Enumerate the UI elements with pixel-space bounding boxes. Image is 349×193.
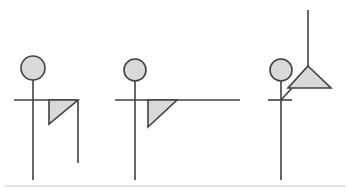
figure-three (268, 10, 331, 180)
figure-one-triangle-shape (49, 100, 78, 124)
figure-one (14, 56, 78, 180)
figure-two (115, 59, 240, 180)
figures-svg (0, 0, 349, 193)
figure-three-circle-head (270, 59, 292, 81)
diagram-canvas (0, 0, 349, 193)
figure-three-connector (281, 88, 292, 100)
figure-two-triangle-shape (148, 100, 177, 127)
figure-three-triangle-shape (288, 66, 331, 88)
figure-one-circle-head (21, 56, 45, 80)
figure-two-circle-head (124, 59, 146, 81)
